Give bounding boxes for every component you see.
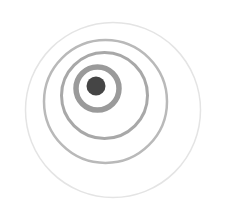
center-dot [87,77,106,96]
concentric-circles-figure [0,0,226,205]
ripple-target-graphic [0,0,226,205]
outer-ring [26,23,201,198]
